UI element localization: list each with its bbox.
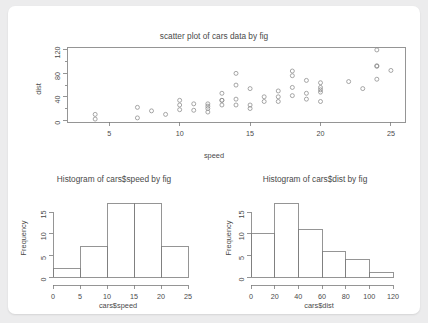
scatter-point: [319, 99, 323, 103]
scatter-point: [220, 98, 224, 102]
scatter-ylabel: dist: [34, 83, 43, 95]
hist-dist-bars: [251, 203, 393, 277]
scatter-plot-panel: scatter plot of cars data by fig dist sp…: [8, 6, 420, 166]
scatter-point: [304, 78, 308, 82]
hist-dist-axes-xtick-label: 100: [363, 292, 375, 301]
hist-dist-ylabel: Frequency: [224, 220, 233, 255]
hist-speed-axes-xtick-label: 0: [51, 292, 55, 301]
hist-dist-axes-xtick-label: 120: [387, 292, 399, 301]
hist-dist-axes-xtick-label: 40: [294, 292, 302, 301]
hist-speed-axes-xtick-label: 20: [157, 292, 165, 301]
scatter-point: [234, 97, 238, 101]
scatter-points: [93, 48, 393, 121]
scatter-point: [234, 71, 238, 75]
scatter-point: [178, 108, 182, 112]
scatter-point: [319, 81, 323, 85]
hist-speed-axes-ytick-label: 0: [39, 278, 48, 282]
scatter-point: [375, 48, 379, 52]
histogram-dist-panel: Histogram of cars$dist by fig Frequency …: [215, 166, 420, 314]
scatter-ytick-label: 80: [53, 72, 62, 80]
hist-speed-axes-ytick-label: 5: [39, 256, 48, 260]
scatter-point: [192, 102, 196, 106]
hist-dist-axes-ytick-label: 5: [237, 256, 246, 260]
scatter-title: scatter plot of cars data by fig: [160, 31, 269, 41]
scatter-xtick-label: 25: [387, 129, 395, 138]
scatter-point: [164, 112, 168, 116]
hist-dist-bars-rect: [298, 229, 322, 277]
hist-dist-axes: 051015020406080100120: [237, 211, 399, 301]
hist-dist-axes-ytick-label: 0: [237, 278, 246, 282]
scatter-point: [135, 116, 139, 120]
hist-dist-title: Histogram of cars$dist by fig: [263, 174, 368, 184]
hist-speed-axes-ytick-label: 15: [39, 211, 48, 219]
scatter-xtick-label: 15: [246, 129, 254, 138]
hist-speed-axes-ytick-label: 10: [39, 232, 48, 240]
hist-speed-axes-xtick-label: 10: [103, 292, 111, 301]
hist-dist-bars-rect: [251, 234, 275, 277]
hist-speed-bars: [53, 203, 188, 277]
scatter-point: [375, 77, 379, 81]
hist-dist-axes-xtick-label: 0: [249, 292, 253, 301]
scatter-point: [192, 108, 196, 112]
scatter-ytick-label: 0: [53, 121, 62, 125]
scatter-point: [178, 103, 182, 107]
hist-dist-axes-xtick-label: 60: [318, 292, 326, 301]
hist-dist-bars-rect: [322, 251, 346, 277]
scatter-point: [93, 117, 97, 121]
scatter-point: [304, 97, 308, 101]
hist-speed-title: Histogram of cars$speed by fig: [57, 174, 172, 184]
hist-speed-xlabel: cars$speed: [99, 301, 137, 310]
scatter-ytick-label: 120: [53, 47, 62, 59]
scatter-point: [135, 105, 139, 109]
hist-speed-axes-xtick-label: 5: [78, 292, 82, 301]
scatter-point: [262, 99, 266, 103]
hist-speed-axes: 0510150510152025: [39, 211, 192, 301]
scatter-xtick-label: 5: [107, 129, 111, 138]
hist-dist-axes-ytick-label: 10: [237, 232, 246, 240]
scatter-point: [220, 91, 224, 95]
scatter-point: [347, 80, 351, 84]
hist-dist-axes-xtick-label: 20: [271, 292, 279, 301]
scatter-point: [262, 95, 266, 99]
scatter-point: [389, 68, 393, 72]
hist-speed-bars-rect: [161, 247, 188, 277]
hist-dist-bars-rect: [275, 203, 299, 277]
hist-speed-bars-rect: [107, 203, 134, 277]
hist-speed-ylabel: Frequency: [19, 220, 28, 255]
scatter-point: [248, 87, 252, 91]
scatter-point: [290, 85, 294, 89]
scatter-point: [276, 95, 280, 99]
scatter-point: [234, 103, 238, 107]
scatter-point: [93, 112, 97, 116]
scatter-point: [276, 99, 280, 103]
hist-dist-bars-rect: [369, 273, 393, 277]
scatter-point: [276, 89, 280, 93]
scatter-point: [361, 87, 365, 91]
scatter-point: [290, 74, 294, 78]
scatter-point: [290, 94, 294, 98]
hist-speed-bars-rect: [53, 268, 80, 277]
scatter-xtick-label: 20: [317, 129, 325, 138]
scatter-axes: 04080120510152025: [53, 47, 405, 138]
scatter-box: [67, 47, 405, 122]
hist-dist-bars-rect: [346, 260, 370, 277]
plot-card: scatter plot of cars data by fig dist sp…: [8, 6, 420, 314]
scatter-xtick-label: 10: [176, 129, 184, 138]
scatter-point: [234, 83, 238, 87]
hist-speed-bars-rect: [80, 247, 107, 277]
hist-dist-axes-ytick-label: 15: [237, 211, 246, 219]
scatter-point: [290, 69, 294, 73]
hist-speed-axes-xtick-label: 25: [184, 292, 192, 301]
hist-speed-axes-xtick-label: 15: [130, 292, 138, 301]
hist-dist-xlabel: cars$dist: [304, 301, 334, 310]
scatter-xlabel: speed: [204, 151, 224, 160]
scatter-point: [178, 98, 182, 102]
scatter-point: [150, 109, 154, 113]
scatter-point: [304, 91, 308, 95]
scatter-ytick-label: 40: [53, 95, 62, 103]
hist-speed-bars-rect: [134, 203, 161, 277]
hist-dist-axes-xtick-label: 80: [342, 292, 350, 301]
scatter-point: [220, 103, 224, 107]
histogram-speed-panel: Histogram of cars$speed by fig Frequency…: [10, 166, 215, 314]
